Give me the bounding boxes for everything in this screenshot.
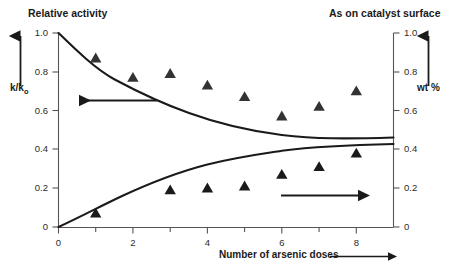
data-point-marker [313,101,324,111]
series-relative-activity-markers [90,53,362,121]
left-y-axis-label-subscript: o [24,87,29,96]
left-y-tick-label: 0.4 [24,144,48,154]
left-y-axis-label: k/ko [10,83,29,96]
x-tick-label: 6 [272,238,292,248]
right-y-tick-label: 0.4 [404,144,428,154]
data-point-marker [239,91,250,101]
right-y-axis-label: wt % [417,83,440,93]
right-y-tick-label: 0.8 [404,67,428,77]
x-tick-label: 4 [197,238,217,248]
left-y-tick-label: 0.2 [24,183,48,193]
data-point-marker [90,53,101,63]
left-y-axis [53,33,59,227]
left-y-axis-label-main: k/k [10,82,24,93]
x-tick-label: 2 [123,238,143,248]
data-point-marker [202,80,213,90]
x-tick-label: 0 [49,238,69,248]
chart-title-right: As on catalyst surface [329,8,440,19]
data-point-marker [165,185,176,195]
x-tick-label: 8 [346,238,366,248]
data-point-marker [351,86,362,96]
chart-figure: Relative activity As on catalyst surface… [0,0,451,272]
series-as-on-catalyst-curve [59,144,394,227]
data-point-marker [90,208,101,218]
x-axis-label: Number of arsenic doses [219,250,338,260]
data-point-marker [239,181,250,191]
left-y-tick-label: 1.0 [24,28,48,38]
data-point-marker [351,148,362,158]
plot-canvas [0,0,451,272]
right-y-tick-label: 0 [404,222,428,232]
chart-title-left: Relative activity [28,8,107,19]
data-point-marker [165,68,176,78]
left-y-tick-label: 0 [24,222,48,232]
right-y-tick-label: 0.6 [404,106,428,116]
data-point-marker [313,161,324,171]
data-point-marker [276,169,287,179]
data-point-marker [276,111,287,121]
data-point-marker [202,183,213,193]
x-axis [59,228,394,234]
left-y-tick-label: 0.8 [24,67,48,77]
right-y-tick-label: 1.0 [404,28,428,38]
left-y-tick-label: 0.6 [24,106,48,116]
right-y-tick-label: 0.2 [404,183,428,193]
series-as-on-catalyst-markers [90,148,362,218]
right-y-axis [394,33,400,227]
data-point-marker [127,72,138,82]
series-relative-activity-curve [59,33,394,138]
